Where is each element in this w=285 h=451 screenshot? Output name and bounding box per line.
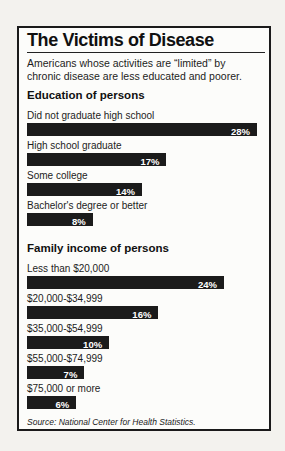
bar-value-label: 10% xyxy=(83,339,102,350)
bar-value-label: 17% xyxy=(140,156,159,167)
bar-value-label: 24% xyxy=(198,279,217,290)
title-rule xyxy=(27,52,265,53)
bar: 17% xyxy=(27,153,166,166)
bar: 6% xyxy=(27,396,76,409)
bar-value-label: 14% xyxy=(116,186,135,197)
bar-value-label: 28% xyxy=(231,126,250,137)
section-header: Education of persons xyxy=(27,89,265,101)
bar: 14% xyxy=(27,183,142,196)
bar-row: Less than $20,00024% xyxy=(27,263,265,289)
category-label: $20,000-$34,999 xyxy=(27,293,265,304)
category-label: $75,000 or more xyxy=(27,383,265,394)
bar-row: $75,000 or more6% xyxy=(27,383,265,409)
category-label: $55,000-$74,999 xyxy=(27,353,265,364)
category-label: Did not graduate high school xyxy=(27,110,265,121)
bar-row: Bachelor's degree or better8% xyxy=(27,200,265,226)
category-label: Less than $20,000 xyxy=(27,263,265,274)
category-label: Bachelor's degree or better xyxy=(27,200,265,211)
bar-row: High school graduate17% xyxy=(27,140,265,166)
page-background: { "chart_data": { "type": "bar", "orient… xyxy=(0,0,285,451)
chart-title: The Victims of Disease xyxy=(27,31,265,50)
chart-body: Education of personsDid not graduate hig… xyxy=(27,89,265,409)
bar: 24% xyxy=(27,276,224,289)
bar: 10% xyxy=(27,336,109,349)
category-label: Some college xyxy=(27,170,265,181)
bar-value-label: 16% xyxy=(132,309,151,320)
chart-section: Education of personsDid not graduate hig… xyxy=(27,89,265,226)
section-header: Family income of persons xyxy=(27,242,265,254)
source-note: Source: National Center for Health Stati… xyxy=(27,417,265,427)
bar-value-label: 7% xyxy=(64,369,78,380)
bar-row: Some college14% xyxy=(27,170,265,196)
bar-value-label: 6% xyxy=(56,399,70,410)
bar: 7% xyxy=(27,366,84,379)
bar-row: Did not graduate high school28% xyxy=(27,110,265,136)
bar-value-label: 8% xyxy=(72,216,86,227)
category-label: High school graduate xyxy=(27,140,265,151)
bar-row: $55,000-$74,9997% xyxy=(27,353,265,379)
chart-section: Family income of personsLess than $20,00… xyxy=(27,242,265,409)
category-label: $35,000-$54,999 xyxy=(27,323,265,334)
chart-subtitle: Americans whose activities are “limited”… xyxy=(27,57,265,83)
chart-frame: The Victims of Disease Americans whose a… xyxy=(17,26,271,431)
bar: 8% xyxy=(27,213,93,226)
bar-row: $20,000-$34,99916% xyxy=(27,293,265,319)
bar-row: $35,000-$54,99910% xyxy=(27,323,265,349)
bar: 16% xyxy=(27,306,158,319)
bar: 28% xyxy=(27,123,257,136)
